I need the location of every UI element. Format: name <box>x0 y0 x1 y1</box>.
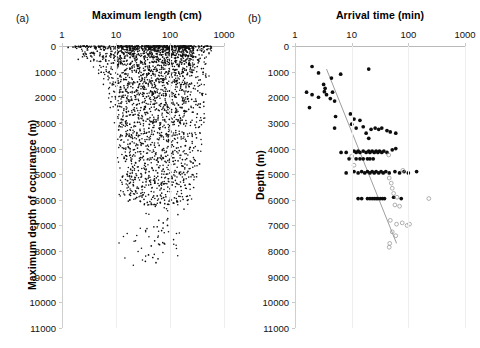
data-point <box>151 51 153 53</box>
data-point <box>175 62 177 64</box>
gridline-vertical <box>408 46 409 328</box>
data-point <box>190 45 192 47</box>
data-point <box>108 88 110 90</box>
data-point <box>130 86 132 88</box>
data-point <box>181 73 183 75</box>
data-point <box>135 152 137 154</box>
data-point <box>174 95 176 97</box>
data-point <box>138 112 140 114</box>
data-point <box>178 104 180 106</box>
data-point <box>142 83 144 85</box>
data-point <box>152 92 154 94</box>
data-point-filled <box>384 170 388 174</box>
data-point <box>145 100 147 102</box>
data-point <box>139 200 141 202</box>
data-point <box>179 82 181 84</box>
data-point <box>177 160 179 162</box>
data-point <box>132 67 134 69</box>
data-point <box>163 183 165 185</box>
data-point <box>163 136 165 138</box>
data-point-filled <box>358 119 362 123</box>
panel-a-plot-area <box>62 46 224 328</box>
data-point <box>176 134 178 136</box>
data-point <box>149 180 151 182</box>
data-point <box>129 129 131 131</box>
data-point <box>100 48 102 50</box>
data-point <box>195 100 197 102</box>
data-point <box>159 132 161 134</box>
data-point <box>130 157 132 159</box>
data-point <box>164 99 166 101</box>
data-point <box>188 48 190 50</box>
data-point <box>165 78 167 80</box>
data-point <box>178 50 180 52</box>
data-point <box>161 159 163 161</box>
data-point <box>162 62 164 64</box>
data-point <box>110 53 112 55</box>
data-point <box>161 192 163 194</box>
data-point <box>99 65 101 67</box>
data-point <box>131 163 133 165</box>
data-point <box>131 71 133 73</box>
data-point <box>200 139 202 141</box>
data-point <box>177 137 179 139</box>
data-point <box>176 86 178 88</box>
data-point <box>83 45 85 47</box>
data-point <box>147 136 149 138</box>
data-point <box>152 71 154 73</box>
data-point <box>167 90 169 92</box>
data-point <box>131 110 133 112</box>
data-point <box>127 55 129 57</box>
data-point <box>159 137 161 139</box>
data-point <box>152 196 154 198</box>
data-point <box>174 89 176 91</box>
data-point <box>117 100 119 102</box>
data-point <box>172 63 174 65</box>
data-point <box>167 186 169 188</box>
data-point <box>126 48 128 50</box>
data-point <box>86 49 88 51</box>
data-point <box>109 82 111 84</box>
data-point <box>153 99 155 101</box>
data-point <box>120 190 122 192</box>
data-point <box>148 92 150 94</box>
data-point <box>199 163 201 165</box>
data-point <box>153 96 155 98</box>
data-point <box>191 136 193 138</box>
data-point <box>173 132 175 134</box>
data-point <box>142 120 144 122</box>
data-point <box>175 72 177 74</box>
data-point <box>186 62 188 64</box>
data-point <box>132 132 134 134</box>
data-point <box>173 93 175 95</box>
data-point <box>150 191 152 193</box>
data-point <box>146 228 148 230</box>
data-point <box>117 82 119 84</box>
data-point <box>188 63 190 65</box>
data-point <box>130 192 132 194</box>
y-tickmark <box>292 123 295 124</box>
data-point <box>171 181 173 183</box>
data-point <box>199 106 201 108</box>
data-point <box>149 62 151 64</box>
data-point <box>150 101 152 103</box>
data-point <box>119 167 121 169</box>
data-point <box>130 62 132 64</box>
data-point <box>163 64 165 66</box>
data-point <box>128 83 130 85</box>
data-point <box>118 61 120 63</box>
data-point <box>175 77 177 79</box>
data-point <box>167 83 169 85</box>
data-point <box>156 58 158 60</box>
data-point <box>185 59 187 61</box>
data-point <box>154 130 156 132</box>
data-point <box>179 173 181 175</box>
data-point <box>156 159 158 161</box>
data-point <box>117 116 119 118</box>
data-point-filled <box>334 115 338 119</box>
data-point-filled <box>352 117 356 121</box>
data-point <box>133 54 135 56</box>
data-point <box>189 50 191 52</box>
data-point <box>161 187 163 189</box>
data-point <box>158 231 160 233</box>
